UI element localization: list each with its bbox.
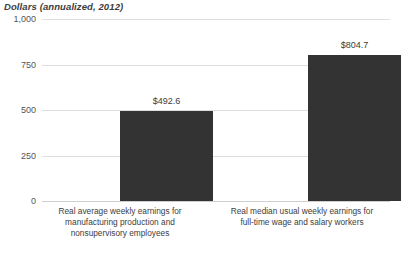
y-axis-tick-750: 750: [21, 60, 36, 70]
category-label-1-line-0: Real median usual weekly earnings for: [208, 206, 396, 217]
category-label-0-line-0: Real average weekly earnings for: [34, 206, 206, 217]
category-label-0-line-2: nonsupervisory employees: [34, 228, 206, 239]
category-label-0-line-1: manufacturing production and: [34, 217, 206, 228]
bar-0[interactable]: [120, 111, 213, 201]
bar-value-label-1: $804.7: [341, 40, 369, 50]
category-label-1: Real median usual weekly earnings for fu…: [208, 206, 396, 228]
bar-1[interactable]: [308, 55, 401, 201]
bar-value-label-0: $492.6: [153, 96, 181, 106]
y-axis-tick-500: 500: [21, 105, 36, 115]
y-axis-tick-0: 0: [31, 196, 36, 206]
y-axis-tick-1000: 1,000: [13, 14, 36, 24]
category-label-1-line-1: full-time wage and salary workers: [208, 217, 396, 228]
chart-axis-title: Dollars (annualized, 2012): [4, 1, 123, 12]
gridline-1000: [42, 19, 390, 20]
plot-area: 1,0007505002500$492.6$804.7: [42, 19, 390, 201]
y-axis-tick-250: 250: [21, 151, 36, 161]
category-label-0: Real average weekly earnings for manufac…: [34, 206, 206, 240]
gridline-0: [42, 201, 390, 202]
